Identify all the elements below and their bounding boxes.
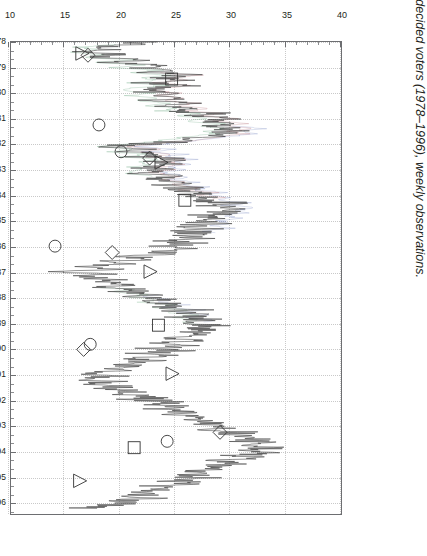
- x-tick-minor: [11, 59, 14, 60]
- gridline-vertical: [11, 196, 341, 197]
- y-tick-minor: [19, 42, 20, 45]
- gridline-vertical: [11, 349, 341, 350]
- y-tick-minor: [240, 42, 241, 45]
- y-tick-major: [174, 42, 175, 47]
- x-tick-minor: [11, 367, 14, 368]
- data-marker-square: [179, 194, 191, 206]
- x-tick-major: [11, 401, 16, 402]
- x-tick-minor: [11, 179, 14, 180]
- x-tick-major: [11, 42, 16, 43]
- gridline-vertical: [11, 273, 341, 274]
- x-tick-major: [11, 144, 16, 145]
- x-tick-label: 1983: [0, 165, 6, 174]
- gridline-vertical: [11, 144, 341, 145]
- x-tick-minor: [11, 409, 14, 410]
- x-tick-minor: [11, 486, 14, 487]
- y-tick-minor: [85, 42, 86, 45]
- x-tick-major: [11, 119, 16, 120]
- x-tick-minor: [11, 315, 14, 316]
- y-tick-minor: [207, 42, 208, 45]
- data-marker-diamond: [213, 425, 227, 439]
- y-tick-label: 35: [282, 11, 292, 20]
- x-tick-label: 1984: [0, 190, 6, 199]
- x-tick-minor: [11, 51, 14, 52]
- x-tick-major: [11, 170, 16, 171]
- gridline-horizontal: [340, 42, 341, 514]
- x-tick-minor: [11, 435, 14, 436]
- y-tick-minor: [185, 42, 186, 45]
- x-tick-major: [11, 324, 16, 325]
- gridline-vertical: [11, 42, 341, 43]
- y-tick-label: 20: [116, 11, 126, 20]
- data-marker-circle: [161, 435, 173, 447]
- x-tick-minor: [11, 85, 14, 86]
- y-tick-label: 25: [171, 11, 181, 20]
- gridline-vertical: [11, 503, 341, 504]
- y-tick-minor: [196, 42, 197, 45]
- y-tick-label: 10: [5, 11, 15, 20]
- gridline-horizontal: [8, 42, 9, 514]
- data-marker-square: [166, 73, 178, 85]
- x-tick-label: 1995: [0, 472, 6, 481]
- x-tick-major: [11, 273, 16, 274]
- data-marker-diamond: [143, 151, 157, 165]
- gridlines: [11, 42, 341, 514]
- x-tick-minor: [11, 332, 14, 333]
- x-tick-minor: [11, 281, 14, 282]
- x-tick-minor: [11, 213, 14, 214]
- y-tick-major: [340, 42, 341, 47]
- gridline-horizontal: [285, 42, 286, 514]
- y-tick-major: [8, 42, 9, 47]
- series-path-auxiliary: [134, 126, 267, 232]
- figure-caption: Figure 4.2 Percentage of undecided voter…: [413, 0, 427, 278]
- chart-rotor: 1978197919801981198219831984198519861987…: [10, 41, 342, 515]
- data-marker-circle: [93, 119, 105, 131]
- gridline-vertical: [11, 119, 341, 120]
- x-tick-label: 1989: [0, 319, 6, 328]
- x-tick-minor: [11, 102, 14, 103]
- y-tick-major: [119, 42, 120, 47]
- gridline-vertical: [11, 221, 341, 222]
- x-tick-minor: [11, 392, 14, 393]
- y-tick-minor: [152, 42, 153, 45]
- x-tick-label: 1986: [0, 242, 6, 251]
- y-tick-minor: [274, 42, 275, 45]
- x-tick-minor: [11, 110, 14, 111]
- x-tick-label: 1980: [0, 88, 6, 97]
- x-tick-major: [11, 426, 16, 427]
- y-tick-major: [285, 42, 286, 47]
- x-tick-major: [11, 478, 16, 479]
- x-tick-major: [11, 221, 16, 222]
- series-plot: [11, 42, 341, 514]
- chart-area: 1978197919801981198219831984198519861987…: [10, 41, 342, 515]
- data-marker-diamond: [105, 246, 119, 260]
- gridline-vertical: [11, 401, 341, 402]
- axis-ticks: [11, 42, 341, 514]
- gridline-vertical: [11, 375, 341, 376]
- x-tick-label: 1993: [0, 421, 6, 430]
- x-tick-minor: [11, 418, 14, 419]
- series-path-auxiliary: [70, 45, 225, 177]
- y-tick-major: [229, 42, 230, 47]
- figure-caption-text: Percentage of undecided voters (1978–199…: [413, 0, 427, 278]
- x-tick-minor: [11, 204, 14, 205]
- x-tick-minor: [11, 384, 14, 385]
- x-tick-minor: [11, 443, 14, 444]
- y-tick-minor: [218, 42, 219, 45]
- gridline-vertical: [11, 478, 341, 479]
- data-marker-square: [152, 319, 164, 331]
- y-tick-label: 30: [226, 11, 236, 20]
- series-path-auxiliary: [101, 287, 200, 325]
- x-tick-minor: [11, 358, 14, 359]
- x-tick-label: 1992: [0, 395, 6, 404]
- series-path-auxiliary: [143, 295, 213, 322]
- x-tick-major: [11, 298, 16, 299]
- y-tick-minor: [97, 42, 98, 45]
- plot-frame: [10, 41, 342, 515]
- gridline-horizontal: [119, 42, 120, 514]
- y-tick-minor: [307, 42, 308, 45]
- x-tick-minor: [11, 187, 14, 188]
- x-tick-minor: [11, 238, 14, 239]
- x-tick-label: 1994: [0, 447, 6, 456]
- series-path-main: [48, 42, 284, 508]
